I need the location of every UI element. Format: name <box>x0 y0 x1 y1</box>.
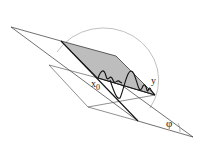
label-y: y <box>151 75 156 86</box>
planes-diagram: x0 y φ <box>0 0 210 143</box>
phi-angle-arc <box>178 123 180 132</box>
label-phi: φ <box>166 117 172 129</box>
shaded-plane <box>61 41 155 95</box>
diagram-canvas: x0 y φ <box>0 0 210 143</box>
